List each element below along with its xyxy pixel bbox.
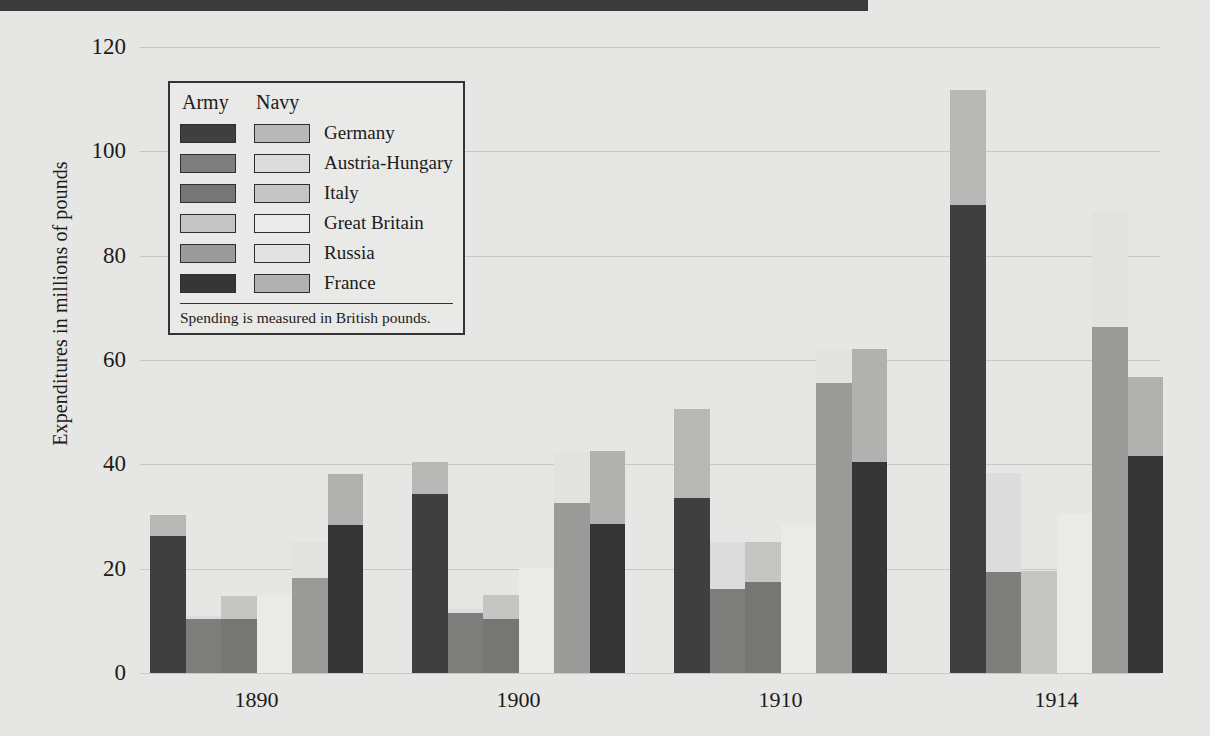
legend-swatch-army <box>180 124 236 143</box>
stacked-bar <box>710 542 746 673</box>
bar-segment-army <box>328 525 364 673</box>
legend-swatch-navy <box>254 244 310 263</box>
x-axis-tick-label: 1900 <box>497 687 541 713</box>
bar-segment-army <box>150 536 186 673</box>
x-axis-tick-label: 1910 <box>759 687 803 713</box>
bar-segment-army <box>186 619 222 673</box>
chart-figure: Expenditures in millions of pounds 02040… <box>0 0 1210 736</box>
bar-segment-army <box>590 524 626 673</box>
stacked-bar <box>221 596 257 673</box>
bar-segment-navy <box>519 568 555 673</box>
legend-note-container: Spending is measured in British pounds. <box>180 303 453 327</box>
stacked-bar <box>328 474 364 673</box>
bar-segment-army <box>554 503 590 673</box>
bar-group <box>950 47 1163 673</box>
bar-segment-navy <box>221 596 257 618</box>
stacked-bar <box>412 462 448 673</box>
y-axis-tick-label: 0 <box>115 660 127 686</box>
bar-segment-navy <box>1021 571 1057 673</box>
legend-item: France <box>180 268 453 298</box>
legend-item-label: Russia <box>324 242 375 264</box>
legend-rows: GermanyAustria-HungaryItalyGreat Britain… <box>180 118 453 298</box>
stacked-bar <box>519 568 555 673</box>
stacked-bar <box>483 595 519 673</box>
bar-segment-army <box>674 498 710 673</box>
stacked-bar <box>150 515 186 673</box>
y-axis-tick-label: 120 <box>92 34 127 60</box>
legend-item: Russia <box>180 238 453 268</box>
stacked-bar <box>554 452 590 673</box>
stacked-bar <box>950 90 986 673</box>
legend-header: Army Navy <box>182 91 453 114</box>
bar-segment-navy <box>986 473 1022 572</box>
legend-header-navy: Navy <box>256 91 326 114</box>
stacked-bar <box>986 473 1022 673</box>
y-axis-tick-label: 20 <box>103 556 126 582</box>
legend-swatch-navy <box>254 274 310 293</box>
x-axis-tick-label: 1890 <box>235 687 279 713</box>
bar-segment-navy <box>554 452 590 503</box>
legend-swatch-navy <box>254 124 310 143</box>
bar-segment-army <box>412 494 448 673</box>
chart-legend: Army Navy GermanyAustria-HungaryItalyGre… <box>168 81 465 335</box>
bar-segment-army <box>986 572 1022 673</box>
legend-swatch-army <box>180 274 236 293</box>
legend-swatch-navy <box>254 214 310 233</box>
x-axis-tick-label: 1914 <box>1035 687 1079 713</box>
stacked-bar <box>745 542 781 673</box>
bar-segment-navy <box>328 474 364 525</box>
legend-header-army: Army <box>182 91 256 114</box>
y-axis-tick-label: 80 <box>103 243 126 269</box>
bar-segment-army <box>221 619 257 673</box>
bar-segment-navy <box>674 409 710 498</box>
bar-segment-army <box>852 462 888 673</box>
y-axis-title: Expenditures in millions of pounds <box>49 94 72 514</box>
legend-item: Italy <box>180 178 453 208</box>
y-axis-tick-label: 40 <box>103 451 126 477</box>
legend-item-label: Germany <box>324 122 395 144</box>
legend-item-label: Italy <box>324 182 359 204</box>
stacked-bar <box>186 616 222 673</box>
legend-item-label: Great Britain <box>324 212 424 234</box>
legend-item-label: Austria-Hungary <box>324 152 453 174</box>
bar-segment-navy <box>483 595 519 618</box>
bar-segment-navy <box>292 542 328 578</box>
legend-swatch-navy <box>254 154 310 173</box>
stacked-bar <box>257 595 293 673</box>
bar-segment-navy <box>816 349 852 383</box>
stacked-bar <box>781 525 817 673</box>
stacked-bar <box>590 451 626 673</box>
legend-swatch-army <box>180 154 236 173</box>
stacked-bar <box>816 349 852 673</box>
bar-segment-navy <box>950 90 986 205</box>
stacked-bar <box>292 542 328 673</box>
y-axis-tick-label: 60 <box>103 347 126 373</box>
stacked-bar <box>1092 211 1128 673</box>
legend-note: Spending is measured in British pounds. <box>180 309 453 327</box>
y-axis-tick-label: 100 <box>92 138 127 164</box>
bar-segment-army <box>950 205 986 673</box>
bar-segment-army <box>710 589 746 674</box>
bar-segment-navy <box>710 542 746 588</box>
bar-segment-navy <box>150 515 186 536</box>
legend-swatch-army <box>180 214 236 233</box>
bar-segment-army <box>483 619 519 673</box>
stacked-bar <box>1057 514 1093 673</box>
legend-item: Great Britain <box>180 208 453 238</box>
bar-group <box>674 47 887 673</box>
stacked-bar <box>448 609 484 673</box>
bar-segment-navy <box>1057 514 1093 673</box>
bar-segment-army <box>745 582 781 673</box>
bar-segment-army <box>292 578 328 673</box>
stacked-bar <box>1021 571 1057 673</box>
stacked-bar <box>674 409 710 673</box>
top-decorative-rule <box>0 0 868 11</box>
bar-segment-navy <box>412 462 448 493</box>
bar-segment-navy <box>745 542 781 582</box>
legend-item: Austria-Hungary <box>180 148 453 178</box>
bar-segment-army <box>816 383 852 673</box>
bar-segment-army <box>1092 327 1128 673</box>
legend-swatch-navy <box>254 184 310 203</box>
legend-item: Germany <box>180 118 453 148</box>
bar-segment-army <box>448 613 484 673</box>
